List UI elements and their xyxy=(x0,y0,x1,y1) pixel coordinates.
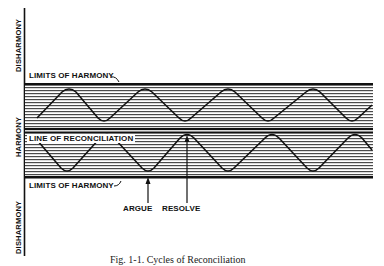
axis-label-harmony: HARMONY xyxy=(14,117,23,157)
lower-limit-label: LIMITS OF HARMONY xyxy=(29,181,114,190)
argue-label: ARGUE xyxy=(123,204,152,213)
upper-limit-line xyxy=(25,83,373,86)
lower-limit-line xyxy=(25,176,373,179)
figure-caption: Fig. 1-1. Cycles of Reconciliation xyxy=(110,254,246,265)
reconciliation-line-a xyxy=(25,128,373,130)
axis-label-disharmony-bottom: DISHARMONY xyxy=(14,201,23,254)
resolve-label: RESOLVE xyxy=(162,204,200,213)
lower-limit-leader xyxy=(114,181,121,186)
reconciliation-label: LINE OF RECONCILIATION xyxy=(27,134,135,143)
axis-label-disharmony-top: DISHARMONY xyxy=(14,19,23,72)
upper-limit-label: LIMITS OF HARMONY xyxy=(29,71,114,80)
